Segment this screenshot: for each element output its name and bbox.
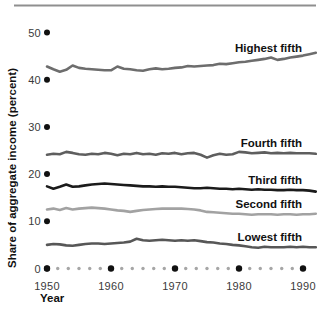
y-axis-title: Share of aggregate income (percent) bbox=[6, 68, 18, 268]
y-tick-label: 20 bbox=[28, 168, 41, 180]
x-tick-label: 1970 bbox=[162, 280, 188, 292]
series-line-highest-fifth bbox=[47, 53, 316, 72]
baseline-minor-dot bbox=[163, 267, 166, 270]
baseline-minor-dot bbox=[141, 267, 144, 270]
y-tick-dot bbox=[44, 30, 50, 36]
chart-canvas: 1950196019701980199001020304050YearShare… bbox=[0, 0, 327, 321]
baseline-minor-dot bbox=[77, 267, 80, 270]
baseline-minor-dot bbox=[184, 267, 187, 270]
baseline-minor-dot bbox=[120, 267, 123, 270]
y-tick-label: 40 bbox=[28, 74, 41, 86]
x-tick-label: 1990 bbox=[290, 280, 316, 292]
y-tick-label: 50 bbox=[28, 27, 41, 39]
y-tick-dot bbox=[44, 171, 50, 177]
baseline-minor-dot bbox=[280, 267, 283, 270]
baseline-minor-dot bbox=[248, 267, 251, 270]
baseline-minor-dot bbox=[99, 267, 102, 270]
x-axis-title: Year bbox=[40, 292, 65, 304]
y-tick-label: 0 bbox=[35, 263, 41, 275]
baseline-minor-dot bbox=[56, 267, 59, 270]
y-tick-dot bbox=[44, 77, 50, 83]
series-label-third-fifth: Third fifth bbox=[248, 174, 302, 186]
series-label-lowest-fifth: Lowest fifth bbox=[237, 231, 302, 243]
series-label-highest-fifth: Highest fifth bbox=[235, 42, 302, 54]
x-tick-label: 1950 bbox=[34, 280, 60, 292]
series-label-second-fifth: Second fifth bbox=[236, 198, 302, 210]
x-tick-dot bbox=[172, 265, 178, 271]
baseline-minor-dot bbox=[195, 267, 198, 270]
baseline-minor-dot bbox=[227, 267, 230, 270]
baseline-minor-dot bbox=[152, 267, 155, 270]
baseline-minor-dot bbox=[291, 267, 294, 270]
x-tick-dot bbox=[108, 265, 114, 271]
y-tick-dot bbox=[44, 218, 50, 224]
x-tick-label: 1980 bbox=[226, 280, 252, 292]
series-line-fourth-fifth bbox=[47, 152, 316, 158]
baseline-minor-dot bbox=[269, 267, 272, 270]
x-tick-dot bbox=[236, 265, 242, 271]
y-tick-dot bbox=[44, 124, 50, 130]
baseline-minor-dot bbox=[259, 267, 262, 270]
baseline-minor-dot bbox=[67, 267, 70, 270]
x-tick-label: 1960 bbox=[98, 280, 124, 292]
baseline-minor-dot bbox=[88, 267, 91, 270]
top-rule-divider bbox=[14, 5, 316, 7]
series-label-fourth-fifth: Fourth fifth bbox=[241, 137, 302, 149]
baseline-minor-dot bbox=[131, 267, 134, 270]
baseline-minor-dot bbox=[205, 267, 208, 270]
x-tick-dot bbox=[300, 265, 306, 271]
income-quintile-chart-figure: 1950196019701980199001020304050YearShare… bbox=[0, 0, 327, 321]
y-tick-label: 10 bbox=[28, 215, 41, 227]
baseline-minor-dot bbox=[216, 267, 219, 270]
y-tick-label: 30 bbox=[28, 121, 41, 133]
y-tick-dot bbox=[44, 266, 50, 272]
